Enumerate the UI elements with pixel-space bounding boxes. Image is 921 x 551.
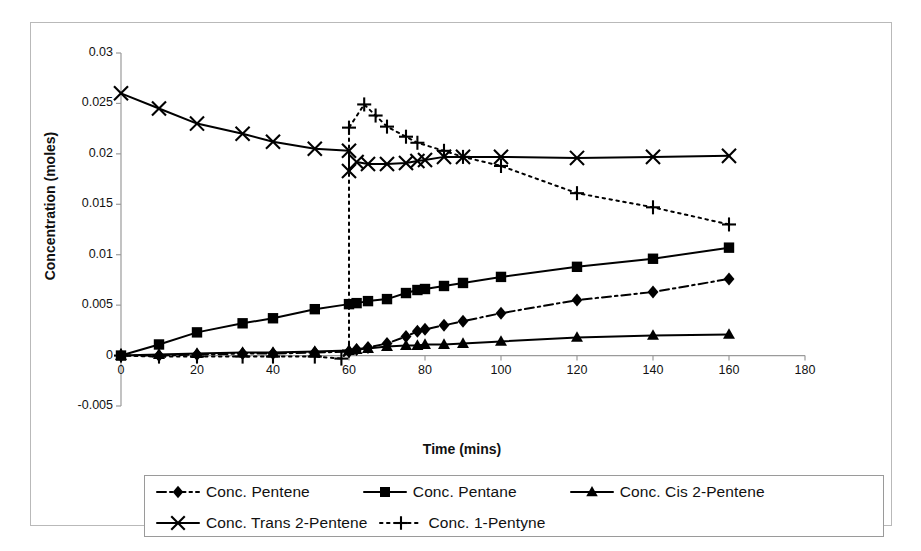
x-axis-tick-label: 120 — [557, 363, 597, 377]
data-point — [420, 323, 431, 336]
data-point — [496, 307, 507, 320]
data-point — [648, 286, 659, 299]
x-axis-tick-label: 160 — [709, 363, 749, 377]
y-axis-tick-label: 0.015 — [43, 196, 113, 210]
data-point — [420, 284, 430, 294]
data-point — [399, 130, 413, 144]
data-point — [439, 319, 450, 332]
legend-key-diamond-icon — [155, 483, 201, 501]
legend-item-label: Conc. Cis 2-Pentene — [620, 483, 765, 501]
x-axis-tick-label: 140 — [633, 363, 673, 377]
x-axis-tick-label: 40 — [253, 363, 293, 377]
legend-item[interactable]: Conc. Pentane — [362, 476, 517, 507]
data-point — [363, 296, 373, 306]
x-axis-tick-label: 100 — [481, 363, 521, 377]
data-point — [496, 272, 506, 282]
y-axis-tick-label: 0.02 — [43, 146, 113, 160]
chart-figure: Time (mins) Concentration (moles) -0.005… — [0, 0, 921, 551]
y-axis-tick-label: 0.025 — [43, 95, 113, 109]
data-point — [412, 325, 423, 338]
y-axis-tick-label: 0.005 — [43, 297, 113, 311]
legend-item[interactable]: Conc. Trans 2-Pentene — [155, 507, 368, 538]
data-point — [192, 327, 202, 337]
legend-key-plus-icon — [378, 514, 424, 532]
chart-frame: Time (mins) Concentration (moles) -0.005… — [30, 22, 892, 526]
data-point — [310, 304, 320, 314]
data-point — [410, 136, 424, 150]
data-point — [458, 315, 469, 328]
legend-key-triangle-icon — [569, 483, 615, 501]
legend-item-label: Conc. Pentane — [413, 483, 517, 501]
data-point — [401, 288, 411, 298]
series-line — [121, 104, 729, 358]
legend-key-square-icon — [362, 483, 408, 501]
data-point — [152, 101, 166, 115]
data-point — [439, 281, 449, 291]
legend-row: Conc. Trans 2-PenteneConc. 1-Pentyne — [145, 507, 883, 538]
x-axis-tick-label: 80 — [405, 363, 445, 377]
legend-key-x-icon — [155, 514, 201, 532]
y-axis-tick-label: -0.005 — [43, 398, 113, 412]
y-axis-tick-label: 0.01 — [43, 247, 113, 261]
y-axis-tick-label: 0 — [43, 348, 113, 362]
chart-legend: Conc. PenteneConc. PentaneConc. Cis 2-Pe… — [144, 475, 884, 537]
data-point — [382, 294, 392, 304]
data-point — [572, 262, 582, 272]
x-axis-tick-label: 60 — [329, 363, 369, 377]
data-point — [236, 127, 250, 141]
data-point — [648, 254, 658, 264]
data-point — [342, 121, 356, 135]
data-point — [724, 242, 734, 252]
data-point — [458, 278, 468, 288]
data-point — [152, 350, 166, 364]
data-point — [437, 144, 451, 158]
data-point — [154, 339, 164, 349]
y-axis-tick-label: 0.03 — [43, 45, 113, 59]
x-axis-title: Time (mins) — [31, 441, 893, 457]
data-point — [724, 272, 735, 285]
legend-item-label: Conc. Trans 2-Pentene — [206, 514, 368, 532]
legend-item[interactable]: Conc. 1-Pentyne — [378, 507, 546, 538]
data-point — [237, 318, 247, 328]
legend-row: Conc. PenteneConc. PentaneConc. Cis 2-Pe… — [145, 476, 883, 507]
series-3 — [114, 86, 736, 178]
data-point — [190, 350, 204, 364]
data-point — [570, 186, 584, 200]
data-point — [268, 313, 278, 323]
x-axis-tick-label: 0 — [101, 363, 141, 377]
legend-item-label: Conc. Pentene — [206, 483, 310, 501]
data-point — [351, 298, 361, 308]
legend-item-label: Conc. 1-Pentyne — [429, 514, 546, 532]
x-axis-tick-label: 180 — [785, 363, 825, 377]
x-axis-tick-label: 20 — [177, 363, 217, 377]
data-point — [646, 200, 660, 214]
legend-item[interactable]: Conc. Cis 2-Pentene — [569, 476, 765, 507]
legend-item[interactable]: Conc. Pentene — [155, 476, 310, 507]
data-point — [190, 117, 204, 131]
data-point — [722, 217, 736, 231]
data-point — [572, 294, 583, 307]
